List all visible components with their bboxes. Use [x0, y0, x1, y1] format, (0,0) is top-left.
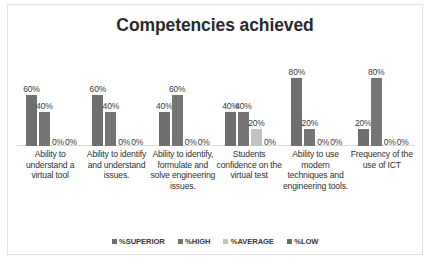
legend-swatch-icon [178, 239, 183, 244]
category-label: Ability to identify and understand issue… [83, 149, 149, 181]
bar-group: 40%60%0%0% [150, 51, 216, 146]
bar-column: 0% [51, 51, 64, 146]
bar-column: 40% [104, 51, 117, 146]
category-label: Ability to identify, formulate and solve… [150, 149, 216, 191]
bar-group: 60%40%0%0% [17, 51, 83, 146]
legend-item[interactable]: %SUPERIOR [112, 237, 165, 246]
bar-value-label: 0% [384, 137, 396, 147]
category-labels: Ability to understand a virtual toolAbil… [17, 149, 415, 237]
bar-column: 0% [263, 51, 276, 146]
bar-column: 60% [91, 51, 104, 146]
bar-value-label: 0% [131, 137, 143, 147]
legend-swatch-icon [112, 239, 117, 244]
bar-value-label: 0% [397, 137, 409, 147]
bar-column: 80% [290, 51, 303, 146]
bar-value-label: 0% [52, 137, 64, 147]
bar-column: 60% [171, 51, 184, 146]
category-label: Ability to understand a virtual tool [17, 149, 83, 181]
bar-column: 40% [38, 51, 51, 146]
bar-column: 40% [237, 51, 250, 146]
bar [251, 129, 262, 146]
bar [225, 112, 236, 146]
bar-column: 0% [329, 51, 342, 146]
bar-column: 0% [383, 51, 396, 146]
bar-group: 80%20%0%0% [282, 51, 348, 146]
bar-group: 20%80%0%0% [349, 51, 415, 146]
bar-column: 40% [224, 51, 237, 146]
bar-group: 40%40%20%0% [216, 51, 282, 146]
legend-swatch-icon [287, 239, 292, 244]
bar-column: 0% [184, 51, 197, 146]
chart-title: Competencies achieved [8, 15, 422, 36]
scan-artifact-text [0, 258, 430, 278]
category-label: Ability to use modern techniques and eng… [282, 149, 348, 191]
bar [159, 112, 170, 146]
bar-value-label: 0% [65, 137, 77, 147]
bar-value-label: 0% [185, 137, 197, 147]
bar-value-label: 0% [264, 137, 276, 147]
legend-item[interactable]: %AVERAGE [223, 237, 273, 246]
bar-column: 0% [197, 51, 210, 146]
bar-column: 20% [250, 51, 263, 146]
legend-label: %SUPERIOR [119, 237, 165, 246]
bar-value-label: 0% [330, 137, 342, 147]
bar-column: 20% [303, 51, 316, 146]
legend-swatch-icon [223, 239, 228, 244]
bar-column: 60% [25, 51, 38, 146]
bar-column: 0% [64, 51, 77, 146]
bar-column: 0% [316, 51, 329, 146]
bar-value-label: 0% [198, 137, 210, 147]
plot-area: 60%40%0%0%60%40%0%0%40%60%0%0%40%40%20%0… [17, 51, 415, 146]
bar-column: 40% [158, 51, 171, 146]
bar-value-label: 0% [317, 137, 329, 147]
bar [39, 112, 50, 146]
bar [291, 78, 302, 146]
bar [172, 95, 183, 146]
bar-group: 60%40%0%0% [83, 51, 149, 146]
bar-column: 80% [370, 51, 383, 146]
bar [371, 78, 382, 146]
legend-label: %LOW [294, 237, 318, 246]
legend-item[interactable]: %HIGH [178, 237, 211, 246]
bar [304, 129, 315, 146]
bar [358, 129, 369, 146]
bar-column: 0% [117, 51, 130, 146]
bar-column: 0% [396, 51, 409, 146]
category-label: Students confidence on the virtual test [216, 149, 282, 181]
legend-label: %HIGH [185, 237, 210, 246]
bar-column: 0% [130, 51, 143, 146]
bar-column: 20% [357, 51, 370, 146]
chart-container: Competencies achieved 60%40%0%0%60%40%0%… [7, 4, 423, 255]
category-label: Frequency of the use of ICT [349, 149, 415, 170]
chart-legend: %SUPERIOR%HIGH%AVERAGE%LOW [8, 237, 422, 246]
bar-value-label: 0% [118, 137, 130, 147]
legend-item[interactable]: %LOW [287, 237, 319, 246]
bar [105, 112, 116, 146]
legend-label: %AVERAGE [231, 237, 274, 246]
